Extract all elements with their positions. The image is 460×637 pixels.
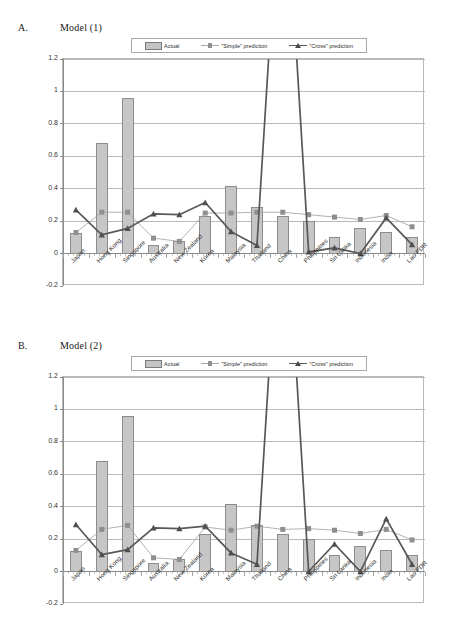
plot-area-model-1: -0.200.20.40.60.811.2JapanHong KongSinga… <box>62 58 424 285</box>
marker-simple-prediction <box>151 236 156 241</box>
legend-item-actual: Actual <box>145 42 179 50</box>
marker-cross-prediction <box>73 207 79 213</box>
panel-a-caption-title: Model (1) <box>60 22 102 33</box>
y-axis-tick-label: 0 <box>29 249 58 256</box>
legend-item-cross: "Cross" prediction <box>289 360 353 367</box>
x-axis-tick-mark <box>425 572 426 576</box>
marker-simple-prediction <box>125 210 130 215</box>
marker-simple-prediction <box>280 527 285 532</box>
panel-a-caption: A.Model (1) <box>18 22 102 33</box>
panel-a-caption-letter: A. <box>18 22 60 33</box>
marker-simple-prediction <box>177 557 182 562</box>
marker-simple-prediction <box>229 528 234 533</box>
legend-line-triangle-icon <box>289 42 307 49</box>
marker-cross-prediction <box>202 199 208 205</box>
y-axis-tick-label: 0.6 <box>29 151 58 158</box>
plot-area-model-2: -0.200.20.40.60.811.2JapanHong KongSinga… <box>62 376 424 603</box>
legend-label-cross: "Cross" prediction <box>309 43 353 49</box>
y-axis-tick-label: 0.2 <box>29 534 58 541</box>
marker-simple-prediction <box>332 215 337 220</box>
y-axis-tick-label: 1.2 <box>29 372 58 379</box>
marker-simple-prediction <box>332 528 337 533</box>
y-axis-tick-label: 0.8 <box>29 119 58 126</box>
panel-b-caption-title: Model (2) <box>60 340 102 351</box>
marker-cross-prediction <box>73 521 79 527</box>
y-axis-tick-label: 1 <box>29 86 58 93</box>
marker-simple-prediction <box>203 211 208 216</box>
marker-simple-prediction <box>358 531 363 536</box>
legend-label-actual: Actual <box>164 361 179 367</box>
y-axis-tick-label: 1 <box>29 404 58 411</box>
legend-label-actual: Actual <box>164 43 179 49</box>
y-axis-tick-label: 0.4 <box>29 502 58 509</box>
marker-simple-prediction <box>177 239 182 244</box>
marker-simple-prediction <box>410 224 415 229</box>
legend-item-simple: "Simple" prediction <box>201 360 267 367</box>
line-simple-prediction <box>76 525 412 559</box>
legend-panel-a: Actual "Simple" prediction "Cross" predi… <box>131 38 367 53</box>
marker-simple-prediction <box>99 527 104 532</box>
marker-simple-prediction <box>358 217 363 222</box>
marker-simple-prediction <box>410 537 415 542</box>
legend-item-actual: Actual <box>145 360 179 368</box>
legend-item-simple: "Simple" prediction <box>201 42 267 49</box>
x-axis-tick-mark <box>425 254 426 258</box>
panel-b-caption: B.Model (2) <box>18 340 102 351</box>
legend-line-square-icon <box>201 360 219 367</box>
series-overlay <box>63 59 425 286</box>
legend-label-simple: "Simple" prediction <box>221 361 267 367</box>
marker-simple-prediction <box>125 523 130 528</box>
marker-simple-prediction <box>229 211 234 216</box>
y-axis-tick-label: -0.2 <box>29 281 58 288</box>
y-axis-tick-label: 0.8 <box>29 437 58 444</box>
marker-simple-prediction <box>384 527 389 532</box>
y-axis-tick-label: 0.6 <box>29 469 58 476</box>
legend-bar-swatch-icon <box>145 360 162 368</box>
legend-item-cross: "Cross" prediction <box>289 42 353 49</box>
marker-simple-prediction <box>151 555 156 560</box>
marker-cross-prediction <box>331 541 337 547</box>
marker-cross-prediction <box>383 516 389 522</box>
y-axis-tick-label: 1.2 <box>29 54 58 61</box>
panel-model-1: A.Model (1) Actual "Simple" prediction "… <box>0 0 460 318</box>
series-overlay <box>63 377 425 604</box>
legend-line-triangle-icon <box>289 360 307 367</box>
legend-bar-swatch-icon <box>145 42 162 50</box>
marker-simple-prediction <box>73 548 78 553</box>
marker-simple-prediction <box>99 210 104 215</box>
legend-label-simple: "Simple" prediction <box>221 43 267 49</box>
y-axis-tick-label: -0.2 <box>29 599 58 606</box>
marker-simple-prediction <box>73 230 78 235</box>
legend-panel-b: Actual "Simple" prediction "Cross" predi… <box>131 356 367 371</box>
y-axis-tick-label: 0 <box>29 567 58 574</box>
line-simple-prediction <box>76 212 412 241</box>
legend-label-cross: "Cross" prediction <box>309 361 353 367</box>
panel-b-caption-letter: B. <box>18 340 60 351</box>
panel-model-2: B.Model (2) Actual "Simple" prediction "… <box>0 318 460 637</box>
y-axis-tick-label: 0.2 <box>29 216 58 223</box>
y-axis-tick-label: 0.4 <box>29 184 58 191</box>
marker-simple-prediction <box>280 210 285 215</box>
legend-line-square-icon <box>201 42 219 49</box>
